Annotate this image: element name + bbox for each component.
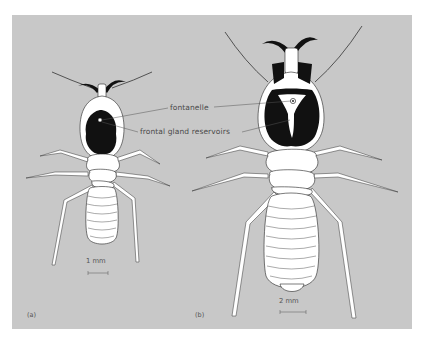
antenna-right-b bbox=[315, 26, 362, 82]
scale-bar-a bbox=[88, 271, 108, 275]
frontal-gland-reservoirs-label: frontal gland reservoirs bbox=[140, 127, 230, 136]
specimen-a bbox=[26, 72, 170, 265]
fontanelle-label: fontanelle bbox=[170, 103, 209, 112]
mandible-left-a bbox=[78, 84, 100, 93]
scale-bar-b bbox=[280, 310, 306, 314]
antenna-right-a bbox=[112, 72, 152, 88]
frontal-gland-reservoir-a bbox=[86, 110, 117, 154]
panel-label-a: (a) bbox=[27, 311, 36, 319]
termite-illustration: .body { fill: #fff; stroke: #222; stroke… bbox=[0, 0, 423, 342]
fontanelle-a bbox=[98, 118, 102, 122]
panel-label-b: (b) bbox=[195, 311, 204, 319]
scale-label-b: 2 mm bbox=[279, 297, 299, 305]
antenna-left-b bbox=[225, 32, 268, 82]
mandible-left-b bbox=[262, 41, 288, 54]
scale-label-a: 1 mm bbox=[86, 257, 106, 265]
abdomen-b bbox=[264, 193, 319, 288]
abdomen-a bbox=[86, 187, 118, 245]
antenna-left-a bbox=[52, 72, 92, 88]
specimen-b bbox=[192, 26, 398, 318]
